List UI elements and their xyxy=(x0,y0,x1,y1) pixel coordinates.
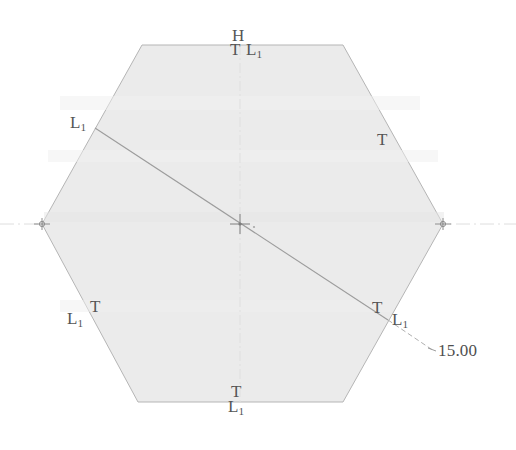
constraint-symbol: T xyxy=(377,130,387,149)
constraint-equal-lower-right[interactable]: L1 xyxy=(392,311,408,330)
constraint-symbol: L xyxy=(228,397,238,416)
constraint-tangent-upper-right[interactable]: T xyxy=(377,131,387,148)
constraint-symbol: T xyxy=(372,298,382,317)
constraint-equal-bottom[interactable]: L1 xyxy=(228,398,244,417)
sketch-svg xyxy=(0,0,516,450)
constraint-tangent-lower-left[interactable]: T xyxy=(90,298,100,315)
dimension-leader-shoulder xyxy=(428,348,436,351)
constraint-symbol: T xyxy=(230,40,240,59)
dimension-value[interactable]: 15.00 xyxy=(438,342,477,359)
constraint-subscript: 1 xyxy=(77,317,83,329)
constraint-tangent-lower-right[interactable]: T xyxy=(372,299,382,316)
constraint-subscript: 1 xyxy=(80,121,86,133)
constraint-subscript: 1 xyxy=(256,48,262,60)
constraint-subscript: 1 xyxy=(238,405,244,417)
constraint-equal-lower-left[interactable]: L1 xyxy=(67,310,83,329)
constraint-subscript: 1 xyxy=(402,318,408,330)
cad-drawing-canvas[interactable]: H T L1 L1 T T L1 T L1 T L1 15.00 xyxy=(0,0,516,450)
constraint-symbol: L xyxy=(70,113,80,132)
constraint-symbol: L xyxy=(67,309,77,328)
constraint-tangent-top[interactable]: T xyxy=(230,41,240,58)
constraint-symbol: L xyxy=(246,40,256,59)
constraint-symbol: L xyxy=(392,310,402,329)
constraint-equal-top[interactable]: L1 xyxy=(246,41,262,60)
constraint-equal-upper-left[interactable]: L1 xyxy=(70,114,86,133)
coincident-point-mark xyxy=(253,226,255,228)
constraint-symbol: T xyxy=(90,297,100,316)
